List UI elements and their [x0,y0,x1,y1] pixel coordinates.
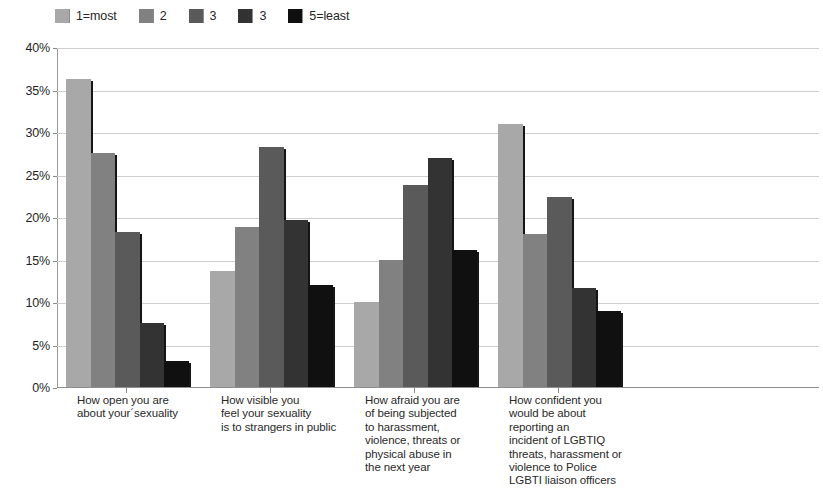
legend-item[interactable]: 1=most [55,9,117,23]
legend-item[interactable]: 2 [139,9,167,23]
category-labels: How open you are about your´sexualityHow… [57,394,819,501]
y-axis-tick [53,176,57,177]
x-axis-tick [270,388,271,393]
chart-legend: 1=most2335=least [55,4,371,28]
category-label: How open you are about your´sexuality [77,394,178,421]
legend-item[interactable]: 5=least [288,9,349,23]
y-axis-tick [53,303,57,304]
legend-swatch-icon [55,9,69,23]
bar[interactable] [596,311,621,387]
bar[interactable] [354,302,379,387]
bar[interactable] [66,79,91,387]
bar[interactable] [140,323,165,387]
y-axis-tick-label: 35% [26,84,50,98]
plot-area: 0%5%10%15%20%25%30%35%40% [57,48,819,388]
legend-swatch-icon [139,9,153,23]
y-axis-tick [53,91,57,92]
bar[interactable] [115,232,140,387]
bar[interactable] [259,147,284,387]
legend-label: 3 [259,9,266,23]
category-label: How visible you feel your sexuality is t… [221,394,336,434]
bar[interactable] [547,197,572,387]
bar[interactable] [164,361,189,387]
bar[interactable] [308,285,333,387]
y-axis-tick [53,388,57,389]
legend-label: 2 [160,9,167,23]
bar-group [354,48,477,387]
bar-group [498,48,621,387]
bar[interactable] [235,227,260,387]
y-axis-tick-label: 20% [26,211,50,225]
legend-label: 3 [210,9,217,23]
x-axis-tick [414,388,415,393]
bar[interactable] [428,158,453,388]
y-axis-tick-label: 15% [26,254,50,268]
legend-swatch-icon [189,9,203,23]
bar-groups [58,48,819,387]
y-axis-tick-label: 40% [26,41,50,55]
bar[interactable] [210,271,235,387]
category-label: How afraid you are of being subjected to… [365,394,460,474]
y-axis-tick-label: 10% [26,296,50,310]
bar[interactable] [523,234,548,387]
y-axis-tick [53,346,57,347]
bar-group [210,48,333,387]
y-axis-tick-label: 25% [26,169,50,183]
legend-swatch-icon [238,9,252,23]
bar[interactable] [91,153,116,387]
legend-label: 1=most [76,9,117,23]
y-axis-tick [53,261,57,262]
x-axis-tick [558,388,559,393]
y-axis-tick [53,218,57,219]
legend-label: 5=least [309,9,349,23]
x-axis-line [57,387,819,388]
bar[interactable] [572,288,597,387]
y-axis-tick [53,48,57,49]
legend-item[interactable]: 3 [189,9,217,23]
grouped-bar-chart: 1=most2335=least 0%5%10%15%20%25%30%35%4… [0,0,823,501]
bar[interactable] [284,220,309,387]
bar[interactable] [379,260,404,388]
bar[interactable] [452,250,477,387]
bar[interactable] [498,124,523,387]
category-label: How confident you would be about reporti… [509,394,622,488]
bar[interactable] [403,185,428,387]
y-axis-tick-label: 30% [26,126,50,140]
legend-swatch-icon [288,9,302,23]
x-axis-tick [126,388,127,393]
y-axis-tick-label: 0% [32,381,50,395]
bar-group [66,48,189,387]
y-axis-tick-label: 5% [32,339,50,353]
legend-item[interactable]: 3 [238,9,266,23]
y-axis-tick [53,133,57,134]
